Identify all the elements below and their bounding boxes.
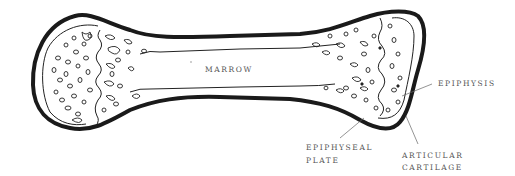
marrow-cavity-bottom xyxy=(130,84,335,92)
articular-cartilage-leader-line xyxy=(406,116,418,144)
marrow-cavity-top xyxy=(140,44,340,54)
epiphysis-label: EPIPHYSIS xyxy=(438,79,496,88)
articular-cartilage-label-line2: CARTILAGE xyxy=(402,163,463,172)
right-epiphyseal-plate xyxy=(378,18,385,116)
bone-diagram: MARROW EPIPHYSIS EPIPHYSEAL PLATE ARTICU… xyxy=(0,0,515,176)
epiphyseal-plate-leader-line xyxy=(340,118,364,138)
right-spongy-bone xyxy=(312,24,402,112)
left-epiphyseal-plate xyxy=(95,30,101,126)
epiphyseal-plate-label-line2: PLATE xyxy=(306,156,340,165)
articular-cartilage-label-line1: ARTICULAR xyxy=(401,151,463,160)
marrow-label: MARROW xyxy=(205,65,253,74)
epiphyseal-plate-label-line1: EPIPHYSEAL xyxy=(306,143,373,152)
